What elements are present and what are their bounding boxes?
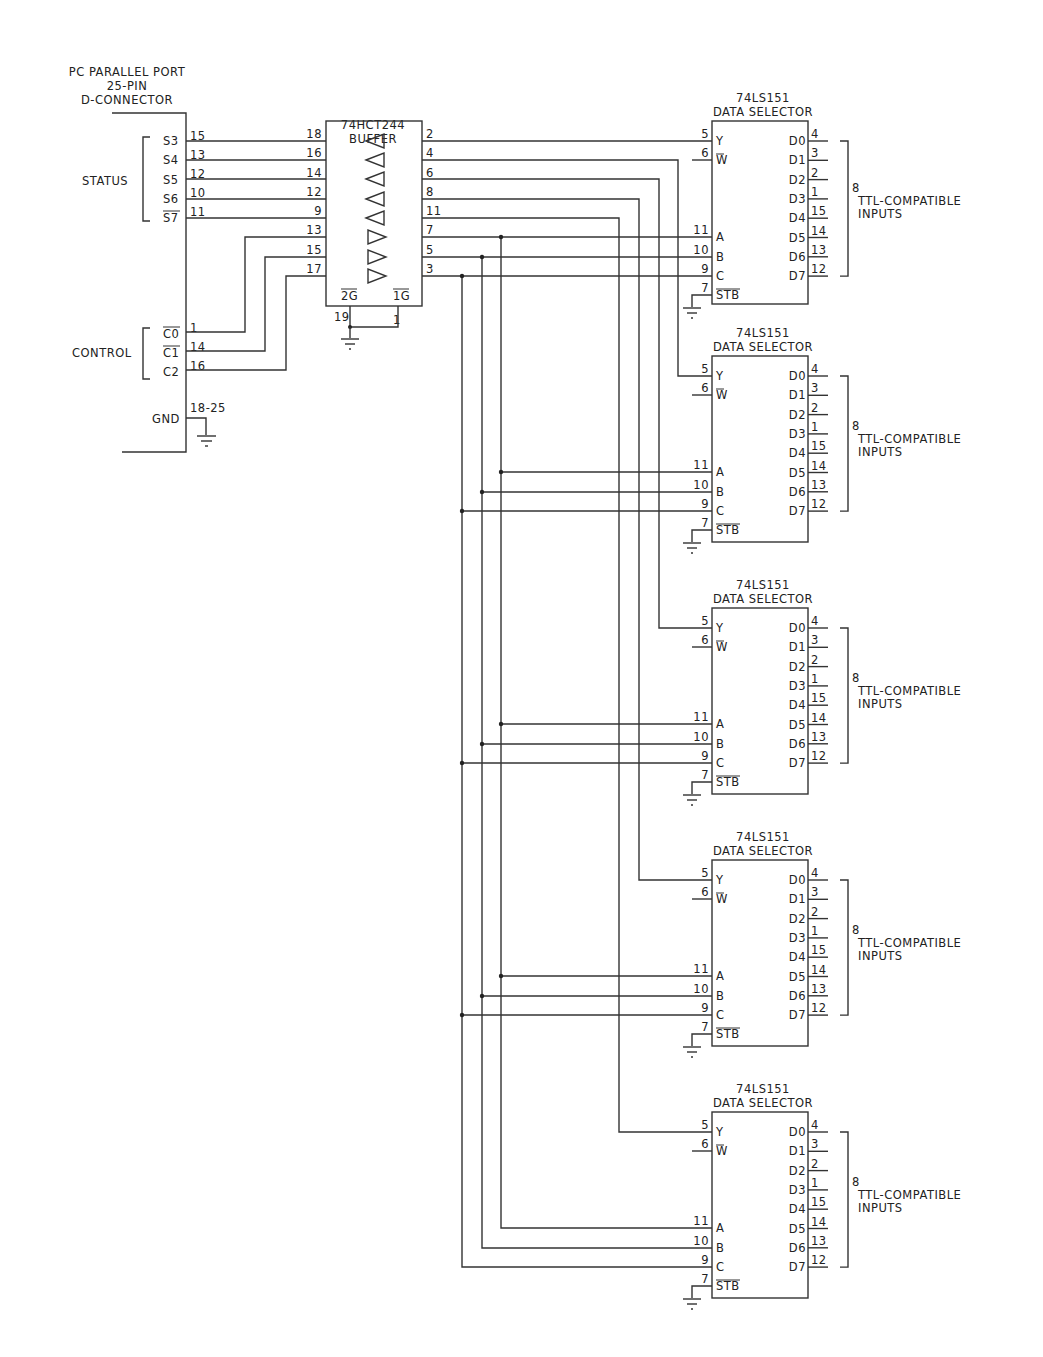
selector-data-pin-name: D2 xyxy=(789,173,806,187)
selector-pin-number: 10 xyxy=(693,982,709,996)
selector-pin-name: STB xyxy=(716,1279,740,1293)
selector-pin-name: STB xyxy=(716,1027,740,1041)
selector-data-pin-name: D7 xyxy=(789,756,806,770)
selector-data-pin-name: D6 xyxy=(789,989,806,1003)
selector-pin-name: W xyxy=(716,892,728,906)
selector-data-pin-name: D7 xyxy=(789,1008,806,1022)
selector-pin-number: 10 xyxy=(693,243,709,257)
selector-part-number: 74LS151 xyxy=(736,830,790,844)
selector-pin-number: 10 xyxy=(693,730,709,744)
selector-pin-number: 10 xyxy=(693,478,709,492)
pin-s6-number: 10 xyxy=(190,186,206,200)
selector-data-pin-name: D0 xyxy=(789,1125,806,1139)
selector-data-pin-name: D5 xyxy=(789,1222,806,1236)
selector-data-pin-name: D2 xyxy=(789,912,806,926)
selector-data-pin-number: 14 xyxy=(811,711,827,725)
selector-pin-name: STB xyxy=(716,523,740,537)
selector-pin-number: 6 xyxy=(701,885,709,899)
selector-data-pin-name: D2 xyxy=(789,1164,806,1178)
data-selector-1: 74LS151 DATA SELECTOR 8 TTL-COMPATIBLE I… xyxy=(712,91,961,304)
buffer-triangle-right-icon xyxy=(368,230,386,283)
selector-data-pin-number: 3 xyxy=(811,381,819,395)
selector-pin-number: 11 xyxy=(693,458,709,472)
inputs-note-count: 8 xyxy=(852,1175,860,1189)
selector-pin-name: Y xyxy=(715,1125,724,1139)
buffer-pin-right: 2 xyxy=(426,127,434,141)
junction-dot xyxy=(480,255,484,259)
buffer-part-number: 74HCT244 xyxy=(341,118,405,132)
selector-data-pin-number: 13 xyxy=(811,478,827,492)
selector-part-number: 74LS151 xyxy=(736,1082,790,1096)
inputs-note-line1: TTL-COMPATIBLE xyxy=(857,432,961,446)
selector-pin-number: 7 xyxy=(701,281,709,295)
selector-data-pin-name: D4 xyxy=(789,211,806,225)
selector-pin-number: 11 xyxy=(693,710,709,724)
ground-icon xyxy=(341,339,359,349)
inputs-note-line2: INPUTS xyxy=(858,1201,903,1215)
buffer-pin-left: 16 xyxy=(306,146,322,160)
junction-dot xyxy=(499,235,503,239)
buffer-pin-19: 19 xyxy=(334,310,350,324)
selector-data-pin-name: D0 xyxy=(789,621,806,635)
selector-data-pin-number: 1 xyxy=(811,1176,819,1190)
selector-label: DATA SELECTOR xyxy=(713,844,813,858)
selector-pin-name: Y xyxy=(715,369,724,383)
selector-pin-number: 6 xyxy=(701,381,709,395)
status-bracket xyxy=(143,137,150,221)
data-selector-3: 74LS151 DATA SELECTOR 8 TTL-COMPATIBLE I… xyxy=(712,578,961,794)
selector-data-pin-number: 1 xyxy=(811,185,819,199)
selector-data-pin-number: 13 xyxy=(811,1234,827,1248)
selector-pin-number: 9 xyxy=(701,497,709,511)
control-bracket xyxy=(143,328,150,379)
buffer-74hct244: 74HCT244 BUFFER 18 16 14 12 9 13 15 17 2… xyxy=(306,118,441,349)
selector-data-pin-name: D1 xyxy=(789,1144,806,1158)
schematic: PC PARALLEL PORT 25-PIN D-CONNECTOR STAT… xyxy=(0,0,1043,1357)
selector-pin-number: 11 xyxy=(693,962,709,976)
buffer-pin-left: 14 xyxy=(306,166,322,180)
selector-part-number: 74LS151 xyxy=(736,91,790,105)
selector-label: DATA SELECTOR xyxy=(713,340,813,354)
enable-tie-wire xyxy=(350,306,398,327)
selector-data-pin-number: 13 xyxy=(811,243,827,257)
connector-title-line2: 25-PIN xyxy=(107,79,148,93)
selector-data-pin-number: 3 xyxy=(811,885,819,899)
selector-data-pin-name: D4 xyxy=(789,950,806,964)
selector-data-pin-name: D5 xyxy=(789,466,806,480)
selector-data-pin-name: D2 xyxy=(789,408,806,422)
selector-data-pin-name: D6 xyxy=(789,737,806,751)
control-group-label: CONTROL xyxy=(72,346,132,360)
inputs-bracket xyxy=(840,880,848,1015)
selector-data-pin-number: 4 xyxy=(811,127,819,141)
data-selector-5: 74LS151 DATA SELECTOR 8 TTL-COMPATIBLE I… xyxy=(712,1082,961,1298)
buffer-pin-right: 5 xyxy=(426,243,434,257)
selector-pin-name: W xyxy=(716,153,728,167)
selector-data-pin-name: D1 xyxy=(789,640,806,654)
selector-pin-number: 5 xyxy=(701,127,709,141)
selector-data-pin-number: 1 xyxy=(811,924,819,938)
selector-data-pin-name: D2 xyxy=(789,660,806,674)
selector-pin-name: C xyxy=(716,269,725,283)
selector-pin-name: B xyxy=(716,989,724,1003)
selector-pin-name: A xyxy=(716,717,724,731)
selector-data-pin-number: 4 xyxy=(811,362,819,376)
selector-data-pin-name: D3 xyxy=(789,427,806,441)
selector-pin-number: 9 xyxy=(701,262,709,276)
selector-data-pin-number: 15 xyxy=(811,204,827,218)
pin-c2-name: C2 xyxy=(163,365,179,379)
selector-pin-number: 5 xyxy=(701,866,709,880)
selector-data-pin-number: 14 xyxy=(811,963,827,977)
selector-pin-number: 5 xyxy=(701,362,709,376)
buffer-pin-right: 11 xyxy=(426,204,442,218)
selector-data-pin-name: D3 xyxy=(789,1183,806,1197)
selector-pin-name: B xyxy=(716,250,724,264)
selector-pin-name: A xyxy=(716,969,724,983)
connector-title-line3: D-CONNECTOR xyxy=(81,93,173,107)
gnd-label: GND xyxy=(152,412,180,426)
buffer-pin-left: 17 xyxy=(306,262,322,276)
selector-pin-name: B xyxy=(716,1241,724,1255)
selector-pin-name: A xyxy=(716,1221,724,1235)
buffer-pin-left: 15 xyxy=(306,243,322,257)
enable-1g-label: 1G xyxy=(393,289,410,303)
selector-data-pin-number: 15 xyxy=(811,439,827,453)
inputs-note-count: 8 xyxy=(852,419,860,433)
